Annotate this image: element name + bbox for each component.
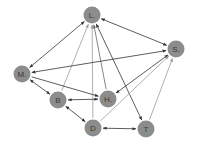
node-b: B — [50, 92, 67, 109]
edge-l-m — [30, 21, 85, 67]
edge-b-d — [66, 106, 85, 122]
edge-l-s — [101, 19, 166, 45]
edge-b-l — [62, 24, 89, 90]
edge-s-h — [116, 55, 168, 93]
edge-d-t — [103, 128, 136, 129]
node-label: D — [90, 124, 96, 133]
node-t: T — [138, 121, 155, 138]
edge-d-l — [92, 25, 93, 118]
node-label: L. — [89, 11, 96, 20]
edge-m-b — [30, 80, 50, 94]
edges-layer — [30, 19, 173, 129]
node-label: M. — [18, 70, 27, 79]
edge-b-h — [68, 99, 98, 100]
edge-t-s — [150, 58, 173, 119]
directed-graph: L.S.M.BH.DT — [0, 0, 197, 152]
edge-h-l — [94, 25, 106, 89]
node-label: B — [55, 96, 60, 105]
node-label: T — [144, 125, 149, 134]
nodes-layer: L.S.M.BH.DT — [14, 7, 185, 138]
node-s: S. — [168, 41, 185, 58]
node-l: L. — [84, 7, 101, 24]
edge-d-s — [100, 56, 169, 121]
node-m: M. — [14, 66, 31, 83]
node-d: D — [85, 120, 102, 137]
node-h: H. — [100, 91, 117, 108]
node-label: H. — [104, 95, 112, 104]
edge-m-h — [32, 77, 99, 96]
node-label: S. — [172, 45, 180, 54]
